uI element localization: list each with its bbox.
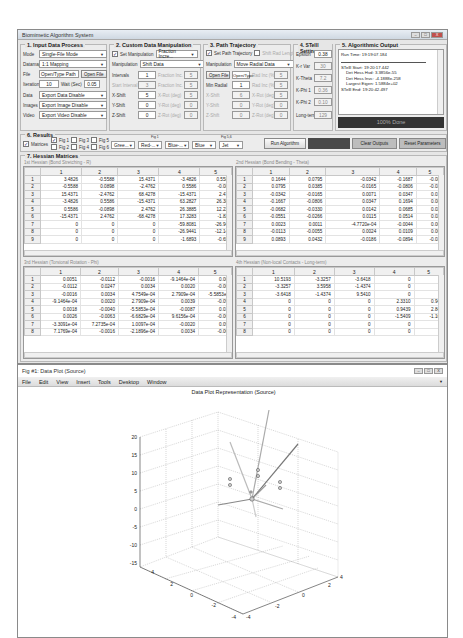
table-cell[interactable]: 0	[374, 321, 414, 329]
table-cell[interactable]: 0	[253, 298, 295, 306]
table-cell[interactable]: 0	[374, 276, 414, 284]
menu-file[interactable]: File	[22, 379, 31, 385]
table-cell[interactable]: 0	[294, 298, 334, 306]
x-shift-input[interactable]: 5	[138, 91, 156, 99]
table-cell[interactable]: 0	[253, 321, 295, 329]
fig6-checkbox[interactable]	[91, 144, 97, 150]
iteration-input[interactable]: 10	[39, 80, 59, 88]
table-cell[interactable]: 0.0020	[81, 298, 119, 306]
minimize-button[interactable]: –	[414, 368, 423, 374]
table-scrollbar[interactable]	[438, 275, 444, 353]
table-cell[interactable]: 9.5410	[334, 291, 374, 299]
output-log[interactable]: Run Time: 19:19:07.184 STelll Start: 19:…	[338, 49, 444, 115]
minimize-button[interactable]: –	[411, 32, 420, 38]
min-radial-input[interactable]: 1	[232, 81, 250, 89]
table-cell[interactable]: 0.0034	[81, 291, 119, 299]
table-cell[interactable]: 0	[118, 228, 159, 236]
table-cell[interactable]: -68.4278	[118, 213, 159, 221]
export-image-select[interactable]: Export Image Disable▼	[39, 101, 107, 109]
table-cell[interactable]: 10.5193	[253, 276, 295, 284]
table-cell[interactable]: 0.0893	[253, 236, 290, 244]
table-cell[interactable]: 0	[118, 221, 159, 229]
table-cell[interactable]: 0	[294, 328, 334, 336]
column-header[interactable]: 1	[41, 268, 81, 276]
table-hscrollbar[interactable]	[236, 250, 444, 256]
table-cell[interactable]: -0.0020	[159, 321, 199, 329]
table-scrollbar[interactable]	[226, 175, 232, 251]
set-manipulation-checkbox[interactable]: ✓	[112, 51, 118, 57]
table-cell[interactable]: -59.8081	[159, 221, 200, 229]
colormap-select[interactable]: Jet▼	[219, 141, 243, 149]
table-cell[interactable]: -9.1464e-04	[159, 276, 199, 284]
close-button[interactable]: X	[431, 32, 443, 38]
column-header[interactable]: 3	[334, 268, 374, 276]
table-cell[interactable]: -6.6829e-04	[118, 313, 158, 321]
table-cell[interactable]: -3.4826	[41, 198, 82, 206]
table-cell[interactable]: 0.1644	[253, 176, 290, 184]
table-cell[interactable]: 2.7909e-04	[118, 298, 158, 306]
table-scrollbar[interactable]	[438, 175, 444, 251]
table-cell[interactable]: -0.0266	[289, 213, 326, 221]
table-cell[interactable]: -0.0186	[326, 236, 380, 244]
file-path-input[interactable]: Open/Type Path	[39, 70, 79, 78]
table-hscrollbar[interactable]	[24, 352, 232, 358]
table-cell[interactable]: 0.0051	[41, 276, 81, 284]
table-cell[interactable]: 0	[374, 291, 414, 299]
table-cell[interactable]: 0.5586	[82, 198, 118, 206]
table-cell[interactable]: 0.0685	[380, 206, 417, 214]
column-header[interactable]: 3	[326, 168, 380, 176]
column-header[interactable]: 4	[380, 168, 417, 176]
table-cell[interactable]: 68.4278	[118, 191, 159, 199]
column-header[interactable]: 1	[253, 168, 290, 176]
table-cell[interactable]: -5.5853e-04	[118, 306, 158, 314]
long-term-input[interactable]: 129	[314, 111, 332, 119]
table-cell[interactable]: -3.6418	[334, 276, 374, 284]
table-cell[interactable]: -0.0806	[289, 198, 326, 206]
table-cell[interactable]: -1.4374	[334, 283, 374, 291]
fig4-checkbox[interactable]	[71, 144, 77, 150]
table-cell[interactable]: 0.0385	[289, 183, 326, 191]
column-header[interactable]: 1	[41, 168, 82, 176]
table-cell[interactable]: -0.5588	[41, 183, 82, 191]
figure-titlebar[interactable]: Fig #1: Data Plot (Source) – □ X	[18, 365, 447, 377]
shift-rad-checkbox[interactable]	[254, 50, 260, 56]
export-video-select[interactable]: Export Video Disable▼	[39, 111, 107, 119]
table-cell[interactable]: -0.5588	[82, 176, 118, 184]
table-cell[interactable]: -0.0112	[81, 276, 119, 284]
table-cell[interactable]: -0.0342	[253, 191, 290, 199]
table-cell[interactable]: 2.7909e-04	[159, 291, 199, 299]
hessian-table-2[interactable]: 1234510.16440.0795-0.0342-0.1687-0.0820.…	[235, 166, 445, 257]
table-cell[interactable]: 15.4371	[118, 176, 159, 184]
table-cell[interactable]: -0.0330	[289, 206, 326, 214]
table-cell[interactable]: 0.0347	[380, 191, 417, 199]
table-cell[interactable]: -0.1667	[253, 198, 290, 206]
table-cell[interactable]: -0.0087	[159, 306, 199, 314]
table-cell[interactable]: 0	[374, 328, 414, 336]
path-file-input[interactable]: Open/Type	[232, 71, 250, 79]
table-cell[interactable]: 0	[253, 313, 295, 321]
table-hscrollbar[interactable]	[236, 352, 444, 358]
column-header[interactable]: 2	[82, 168, 118, 176]
table-cell[interactable]: -3.6418	[253, 291, 295, 299]
table-cell[interactable]: -0.0898	[82, 206, 118, 214]
table-cell[interactable]: -0.0055	[289, 228, 326, 236]
table-cell[interactable]: 0	[294, 313, 334, 321]
table-cell[interactable]: 0	[82, 228, 118, 236]
fig3-checkbox[interactable]	[71, 137, 77, 143]
table-cell[interactable]: 3.5958	[294, 283, 334, 291]
table-cell[interactable]: 0	[82, 221, 118, 229]
table-cell[interactable]: 0	[294, 321, 334, 329]
table-cell[interactable]: -0.0113	[253, 228, 290, 236]
mode-select[interactable]: Single-File Mode▼	[39, 50, 107, 58]
table-cell[interactable]: 0.0034	[118, 283, 158, 291]
table-cell[interactable]: -0.0016	[81, 328, 119, 336]
table-cell[interactable]: 0.0142	[326, 206, 380, 214]
color-select-1[interactable]: Gree...▼	[111, 141, 135, 149]
table-scrollbar[interactable]	[226, 275, 232, 353]
path-open-file-button[interactable]: Open File	[206, 71, 230, 79]
fraction-select[interactable]: Fraction Incre...▼	[156, 50, 198, 58]
main-titlebar[interactable]: Biomimetic Algorithm System – □ X	[18, 30, 447, 40]
table-cell[interactable]: 0.0039	[159, 298, 199, 306]
table-cell[interactable]: 0.0898	[82, 183, 118, 191]
table-cell[interactable]: 0.0034	[159, 328, 199, 336]
